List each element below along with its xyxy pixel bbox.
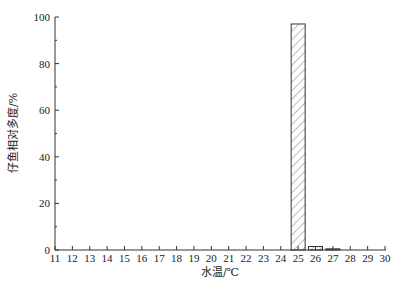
- x-tick-label: 29: [362, 252, 374, 264]
- x-tick-label: 11: [50, 252, 61, 264]
- x-tick-label: 21: [223, 252, 234, 264]
- y-tick-label: 40: [39, 151, 51, 163]
- x-tick-label: 25: [293, 252, 305, 264]
- bar: [291, 24, 305, 250]
- y-tick-label: 60: [39, 104, 51, 116]
- y-axis-label: 仔鱼相对多度/%: [6, 93, 20, 173]
- y-tick-label: 100: [34, 11, 51, 23]
- x-tick-label: 13: [84, 252, 96, 264]
- x-tick-label: 28: [345, 252, 357, 264]
- x-tick-label: 20: [206, 252, 218, 264]
- y-tick-label: 80: [39, 58, 51, 70]
- x-tick-label: 12: [67, 252, 78, 264]
- x-tick-label: 16: [136, 252, 148, 264]
- x-tick-label: 19: [188, 252, 200, 264]
- x-tick-label: 15: [119, 252, 131, 264]
- x-tick-label: 30: [380, 252, 392, 264]
- bar-chart: 020406080100 111213141516171819202122232…: [0, 0, 403, 293]
- x-tick-label: 14: [102, 252, 114, 264]
- x-axis-label: 水温/℃: [201, 266, 239, 279]
- x-tick-label: 23: [258, 252, 270, 264]
- x-tick-label: 26: [310, 252, 322, 264]
- bars: [291, 24, 340, 250]
- x-tick-label: 17: [154, 252, 166, 264]
- x-tick-label: 27: [327, 252, 339, 264]
- x-tick-label: 18: [171, 252, 183, 264]
- y-tick-label: 20: [39, 197, 51, 209]
- x-tick-label: 22: [241, 252, 252, 264]
- x-tick-label: 24: [275, 252, 287, 264]
